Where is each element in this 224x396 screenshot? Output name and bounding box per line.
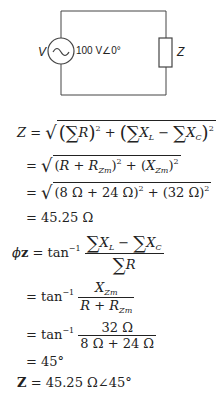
- equation-phase-result: = 45°: [26, 354, 64, 369]
- equation-phase-step-3: = tan−1 32 Ω8 Ω + 24 Ω: [26, 320, 156, 351]
- equation-final-polar: Z = 45.25 Ω∠45°: [17, 375, 132, 390]
- load-label: Z: [177, 45, 184, 59]
- equation-step-4-result: = 45.25 Ω: [26, 210, 93, 225]
- equation-impedance-formula: Z = √(∑R)2 + (∑XL − ∑XC)2: [17, 120, 216, 143]
- equation-phase-formula: ϕz = tan−1 ∑XL − ∑XC∑R: [12, 232, 164, 275]
- circuit-diagram: V 100 V∠0° Z: [0, 0, 224, 110]
- source-value: 100 V∠0°: [76, 45, 121, 56]
- equation-step-2: = √(R + RZm)2 + (XZm)2: [26, 155, 181, 176]
- equation-phase-step-2: = tan−1 XZmR + RZm: [26, 280, 134, 315]
- source-label: V: [38, 45, 46, 59]
- equation-step-3: = √(8 Ω + 24 Ω)2 + (32 Ω)2: [26, 182, 211, 203]
